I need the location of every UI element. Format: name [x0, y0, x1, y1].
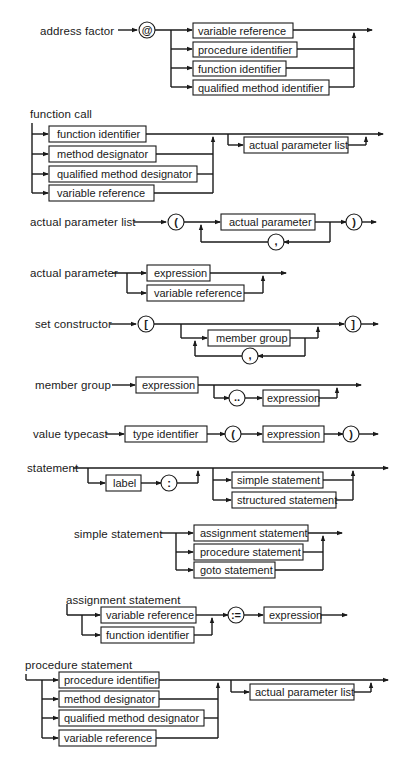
- statement-option: simple statement: [237, 473, 320, 487]
- function-call-option: function identifier: [57, 127, 140, 141]
- function-call-optional-params: actual parameter list: [249, 138, 348, 152]
- address-factor-option: procedure identifier: [198, 43, 292, 57]
- function-call-option: variable reference: [57, 186, 145, 200]
- function-call-option: qualified method designator: [57, 167, 192, 181]
- assignment-target-option: function identifier: [106, 628, 189, 642]
- close-paren-symbol: ): [342, 427, 360, 441]
- open-paren-symbol: (: [224, 427, 242, 441]
- set-constructor-title: set constructor: [35, 317, 112, 331]
- assignment-expression-box: expression: [269, 608, 322, 622]
- comma-separator-symbol: ,: [267, 234, 285, 248]
- type-identifier-box: type identifier: [133, 427, 198, 441]
- open-bracket-symbol: [: [137, 317, 155, 331]
- procedure-statement-option: variable reference: [64, 731, 152, 745]
- typecast-expression-box: expression: [267, 427, 320, 441]
- function-call-option: method designator: [57, 147, 148, 161]
- procedure-statement-option: qualified method designator: [64, 711, 199, 725]
- actual-parameter-item: actual parameter: [229, 215, 312, 229]
- address-factor-title: address factor: [40, 24, 114, 38]
- simple-statement-title: simple statement: [74, 527, 163, 541]
- procedure-statement-optional-params: actual parameter list: [255, 685, 354, 699]
- address-factor-option: variable reference: [198, 24, 286, 38]
- at-symbol: @: [138, 23, 156, 37]
- value-typecast-title: value typecast: [33, 427, 108, 441]
- range-symbol: ..: [228, 390, 246, 404]
- procedure-statement-title: procedure statement: [25, 658, 132, 672]
- member-group-expression: expression: [142, 378, 195, 392]
- close-paren-symbol: ): [345, 215, 363, 229]
- simple-statement-option: procedure statement: [200, 545, 301, 559]
- actual-parameter-list-title: actual parameter list: [30, 215, 136, 229]
- open-paren-symbol: (: [167, 215, 185, 229]
- procedure-statement-option: method designator: [64, 692, 155, 706]
- actual-parameter-option: expression: [154, 266, 207, 280]
- member-group-title: member group: [35, 378, 111, 392]
- procedure-statement-option: procedure identifier: [64, 673, 158, 687]
- member-group-expression: expression: [267, 391, 320, 405]
- address-factor-option: function identifier: [198, 62, 281, 76]
- function-call-title: function call: [30, 107, 92, 121]
- label-box: label: [113, 476, 136, 490]
- actual-parameter-option: variable reference: [154, 286, 242, 300]
- assignment-statement-title: assignment statement: [66, 593, 181, 607]
- close-bracket-symbol: ]: [344, 317, 362, 331]
- statement-option: structured statement: [237, 493, 337, 507]
- actual-parameter-title: actual parameter: [30, 266, 118, 280]
- simple-statement-option: assignment statement: [200, 526, 308, 540]
- assign-operator-symbol: :=: [227, 608, 245, 622]
- statement-title: statement: [27, 461, 78, 475]
- member-group-item: member group: [216, 331, 288, 345]
- colon-symbol: :: [160, 476, 178, 490]
- comma-separator-symbol: ,: [241, 348, 259, 362]
- assignment-target-option: variable reference: [106, 608, 194, 622]
- address-factor-option: qualified method identifier: [198, 81, 323, 95]
- simple-statement-option: goto statement: [200, 563, 273, 577]
